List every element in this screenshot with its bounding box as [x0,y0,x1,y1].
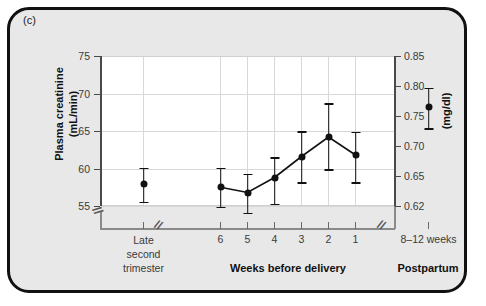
error-cap-lower-late-second-trimester [139,202,148,204]
data-point-week-2 [325,134,332,141]
x-tick-label-postpartum: 8–12 weeks [400,233,456,245]
x-tick-late-second-trimester [143,222,144,229]
x-tick-week-1 [355,222,356,229]
y-tick-right-label-070: 0.70 [404,140,438,152]
data-point-week-1 [352,152,359,159]
y-tick-label-55: 55 [62,200,90,212]
error-cap-upper-week-1 [351,132,360,134]
y-tick-65 [94,131,100,132]
error-cap-upper-week-6 [216,168,225,170]
y-axis-right-lower-stub [394,206,396,229]
panel-label: (c) [23,14,36,26]
x-tick-week-4 [274,222,275,229]
x-tick-label-week-6: 6 [218,233,224,245]
y-tick-right-label-075: 0.75 [404,110,438,122]
x-tick-label-week-4: 4 [272,233,278,245]
error-cap-lower-week-1 [351,182,360,184]
error-cap-upper-week-4 [270,157,279,159]
y-tick-right-062 [395,206,401,207]
y-tick-right-label-085: 0.85 [404,50,438,62]
x-tick-week-3 [301,222,302,229]
error-cap-lower-week-3 [297,182,306,184]
data-point-week-5 [244,189,251,196]
y-axis-title-left-line-1: Plasma creatinine [52,34,66,194]
y-axis-title-left: Plasma creatinine (mL/min) [52,34,80,194]
x-tick-label-line-2: second [123,247,164,261]
x-tick-week-5 [247,222,248,229]
x-tick-label-late-second-trimester: Late second trimester [123,233,164,275]
y-tick-right-070 [395,146,401,147]
x-tick-week-6 [220,222,221,229]
error-cap-lower-week-2 [324,169,333,171]
group-title-postpartum: Postpartum [397,262,458,274]
error-cap-upper-week-2 [324,103,333,105]
data-point-postpartum [425,104,432,111]
y-tick-70 [94,94,100,95]
plot-top-border [100,56,395,57]
chart-container: (c) 75 70 65 60 55 0.85 0.80 0.75 [0,0,486,306]
y-tick-right-label-065: 0.65 [404,170,438,182]
error-cap-upper-late-second-trimester [139,168,148,170]
x-tick-label-week-1: 1 [353,233,359,245]
data-point-late-second-trimester [140,181,147,188]
y-axis-left [100,56,102,206]
x-tick-label-week-3: 3 [299,233,305,245]
y-axis-title-left-line-2: (mL/min) [66,34,80,194]
x-tick-label-line-3: trimester [123,261,164,275]
y-axis-right [394,56,396,206]
x-tick-label-week-5: 5 [245,233,251,245]
error-cap-lower-week-6 [216,207,225,209]
y-tick-75 [94,56,100,57]
y-tick-right-label-080: 0.80 [404,80,438,92]
data-point-week-6 [217,184,224,191]
group-title-weeks-before-delivery: Weeks before delivery [230,262,346,274]
y-axis-left-lower-stub [100,212,102,229]
data-point-week-3 [298,153,305,160]
x-axis-break-mark-1: // [152,217,164,232]
error-cap-upper-week-5 [243,174,252,176]
y-tick-right-065 [395,176,401,177]
x-tick-week-2 [328,222,329,229]
x-tick-label-week-2: 2 [326,233,332,245]
data-point-week-4 [271,174,278,181]
y-tick-right-085 [395,56,401,57]
error-cap-lower-week-4 [270,204,279,206]
y-tick-right-080 [395,86,401,87]
y-axis-break-mark: // [89,204,106,217]
error-cap-upper-postpartum [424,88,433,90]
error-cap-lower-week-5 [243,213,252,215]
error-cap-upper-week-3 [297,131,306,133]
x-tick-label-line-1: Late [123,233,164,247]
y-tick-right-label-062: 0.62 [404,200,438,212]
y-tick-right-075 [395,116,401,117]
y-axis-title-right: (mg/dl) [440,71,452,151]
x-tick-postpartum [428,222,429,229]
x-axis-break-mark-2: // [375,217,387,232]
error-cap-lower-postpartum [424,128,433,130]
y-tick-60 [94,169,100,170]
